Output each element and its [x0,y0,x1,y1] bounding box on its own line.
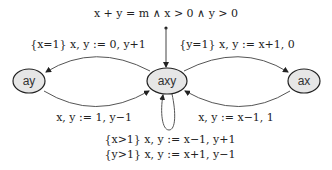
node-axy: axy [147,68,187,94]
edge-label-self-loop-1: {x>1} x, y := x−1, y+1 [104,133,235,146]
edge-axy-to-ay [46,57,150,72]
edge-self-loop-axy [162,94,175,130]
node-label-ay: ay [23,74,36,88]
edge-label-ay-axy: x, y := 1, y−1 [56,111,132,124]
state-diagram: x + y = m ∧ x > 0 ∧ y > 0 {x=1} x, y := … [0,0,332,170]
node-label-ax: ax [298,74,311,88]
edge-label-axy-ay: {x=1} x, y := 0, y+1 [30,38,146,51]
edge-ax-to-axy [185,91,290,107]
edge-label-ax-axy: x, y := x−1, 1 [198,111,274,124]
node-ax: ax [288,69,320,93]
edge-label-axy-ax: {y=1} x, y := x+1, 0 [179,38,295,51]
edge-ay-to-axy [44,91,149,107]
initial-condition: x + y = m ∧ x > 0 ∧ y > 0 [94,7,238,20]
edge-label-self-loop-2: {y>1} x, y := x+1, y−1 [104,148,235,161]
node-ay: ay [13,69,45,93]
edge-axy-to-ax [184,57,288,72]
node-label-axy: axy [158,74,177,88]
